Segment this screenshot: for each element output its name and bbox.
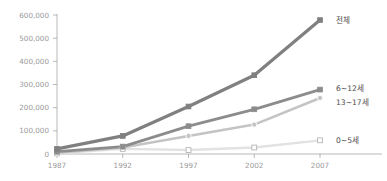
series-marker-3	[318, 138, 323, 143]
series-label-0: 전체	[336, 15, 350, 25]
x-axis-tick-labels: 19871992199720022007	[48, 161, 329, 170]
line-chart: 0100,000200,000300,000400,000500,000600,…	[0, 0, 387, 181]
y-axis-tick-marks	[53, 15, 57, 131]
y-tick-label: 100,000	[19, 126, 49, 135]
y-axis-tick-labels: 0100,000200,000300,000400,000500,000600,…	[19, 11, 49, 159]
x-tick-label: 2007	[311, 161, 329, 170]
y-tick-label: 300,000	[19, 80, 49, 89]
y-tick-label: 600,000	[19, 11, 49, 20]
series-marker-0	[252, 73, 257, 78]
series-label-2: 13~17세	[336, 98, 369, 107]
series-marker-1	[252, 107, 257, 112]
y-tick-label: 500,000	[19, 34, 49, 43]
series-marker-0	[120, 134, 125, 139]
series-marker-1	[318, 87, 323, 92]
series-marker-1	[120, 144, 125, 149]
series-line-0	[57, 20, 320, 149]
series-marker-2	[317, 95, 322, 100]
x-tick-label: 1997	[179, 161, 197, 170]
series-label-1: 6~12세	[336, 84, 364, 93]
series-label-3: 0~5세	[336, 136, 359, 145]
series-marker-2	[252, 122, 257, 127]
x-tick-label: 2002	[245, 161, 263, 170]
series-labels-group: 전체6~12세13~17세0~5세	[336, 15, 369, 145]
series-marker-3	[252, 145, 257, 150]
series-marker-2	[186, 133, 191, 138]
series-marker-3	[186, 148, 191, 153]
x-axis-tick-marks	[57, 154, 320, 158]
series-marker-1	[186, 124, 191, 129]
series-marker-0	[318, 18, 323, 23]
x-tick-label: 1992	[114, 161, 132, 170]
y-tick-label: 200,000	[19, 103, 49, 112]
chart-canvas: 0100,000200,000300,000400,000500,000600,…	[0, 0, 387, 181]
x-tick-label: 1987	[48, 161, 66, 170]
series-marker-0	[186, 104, 191, 109]
series-marker-0	[55, 147, 60, 152]
y-tick-label: 0	[44, 150, 49, 159]
series-markers-group	[54, 18, 322, 156]
y-tick-label: 400,000	[19, 57, 49, 66]
